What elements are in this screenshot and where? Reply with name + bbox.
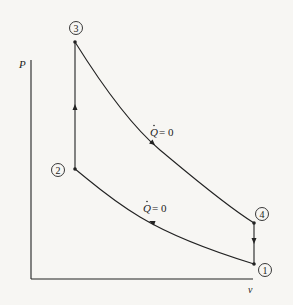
- state-label-4: 4: [256, 208, 269, 221]
- svg-text:3: 3: [74, 23, 79, 34]
- x-axis-label: v: [248, 284, 253, 295]
- state-point-3: [73, 40, 77, 44]
- state-label-1: 1: [259, 264, 272, 277]
- process-1-2: [75, 169, 254, 264]
- state-label-3: 3: [70, 22, 83, 35]
- state-point-1: [252, 262, 256, 266]
- svg-text:1: 1: [263, 265, 268, 276]
- svg-text:= 0: = 0: [159, 126, 174, 138]
- state-point-2: [73, 167, 77, 171]
- arrow-up-icon: [73, 104, 78, 110]
- y-axis-label: P: [18, 58, 26, 70]
- svg-text:4: 4: [260, 209, 265, 220]
- svg-text:= 0: = 0: [152, 202, 167, 214]
- svg-text:2: 2: [56, 165, 61, 176]
- annotation-q-zero-bottom: Q = 0: [143, 201, 167, 214]
- pv-diagram: P v 3 2 4 1 Q = 0 Q = 0: [0, 0, 293, 305]
- annotation-q-zero-top: Q = 0: [150, 125, 174, 138]
- svg-text:Q: Q: [150, 126, 158, 138]
- state-point-4: [252, 221, 256, 225]
- state-label-2: 2: [52, 164, 65, 177]
- svg-text:Q: Q: [143, 202, 151, 214]
- arrow-down-icon: [252, 238, 257, 244]
